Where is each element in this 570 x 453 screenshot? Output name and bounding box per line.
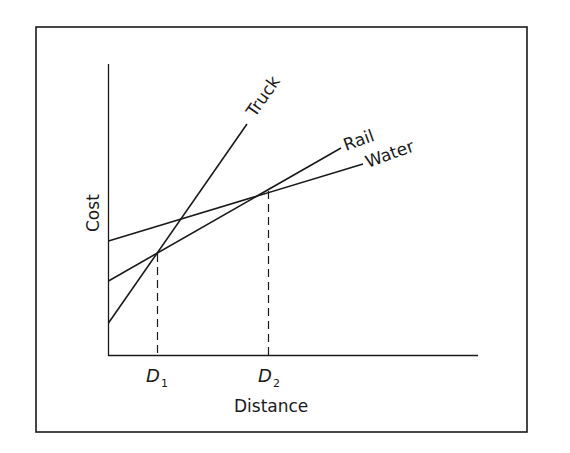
d1-sub: 1 [161,377,168,390]
truck-label: Truck [241,72,284,121]
water-line [109,164,364,241]
d2-main: D [258,365,272,386]
d1-main: D [146,365,160,386]
rail-line [109,148,342,281]
figure-frame [36,27,527,432]
y-axis-label: Cost [83,194,103,232]
d2-tick-label: D 2 [258,365,280,390]
x-axis-label: Distance [234,396,308,416]
d2-sub: 2 [273,377,280,390]
cost-distance-diagram: Truck Rail Water Cost Distance D 1 D 2 [0,0,570,453]
d1-tick-label: D 1 [146,365,168,390]
truck-line [109,124,248,323]
